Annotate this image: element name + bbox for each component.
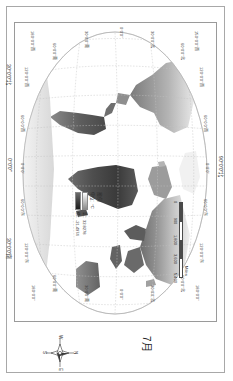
legend-swatch-high-icon (82, 192, 89, 210)
lon-label-top-6: 180°0'0" (195, 285, 200, 301)
scale-bar-ticks: 0 900 1,800 3,600 5,400 (172, 202, 179, 278)
lon-label-top-3: 0°0'0" (205, 163, 210, 174)
lon-label-bottom-0: 180°0'0"西 (30, 31, 36, 51)
legend[interactable]: 图例 单位：°C 高：32.8278 低：-21.4974 (75, 192, 104, 250)
legend-title: 图例 (97, 192, 103, 250)
legend-swatch-low-icon (75, 192, 82, 210)
compass-south-label: S (42, 351, 47, 354)
axis-label-top: 90°0'0"北 (218, 156, 225, 177)
scale-tick-2: 1,800 (174, 235, 179, 245)
legend-row-high: 高：32.8278 (82, 192, 89, 250)
scale-tick-3: 3,600 (174, 254, 179, 264)
lon-label-bottom-3: 0°0'0" (20, 163, 25, 174)
lat-label-left-3: 30°0'0"南 (84, 31, 90, 48)
lon-label-bottom-6: 180°0'0" (31, 285, 36, 301)
lat-label-right-2: 0°0'0" (119, 289, 124, 299)
lon-label-bottom-2: 60°0'0"西 (20, 115, 26, 132)
scale-tick-1: 900 (174, 218, 179, 225)
scale-tick-4: 5,400 (174, 273, 179, 283)
lon-label-top-1: 120°0'0"西 (199, 67, 205, 87)
axis-label-bottom: 0°0'0" (7, 158, 13, 172)
legend-value-low: 低：-21.4974 (75, 212, 81, 236)
map-layout-rotated: 150°0'0"西 120°0'0"西 60°0'0"西 0°0'0" 60°0… (6, 6, 225, 373)
scale-bar-units: Miles (184, 202, 189, 278)
axis-label-left: 30°0'0"北 (6, 64, 13, 85)
compass-rose-icon (43, 336, 77, 370)
lon-label-bottom-4: 60°0'0"东 (20, 199, 26, 216)
lon-label-top-4: 60°0'0"东 (203, 199, 209, 216)
scale-bar-graphic (179, 202, 183, 278)
lon-label-top-5: 120°0'0"东 (199, 243, 205, 263)
lat-label-left-2: 0°0'0" (119, 27, 124, 37)
lat-label-right-3: 30°0'0"南 (84, 285, 90, 302)
compass-west-label: W (58, 335, 63, 339)
scale-seg-2 (180, 222, 182, 241)
lon-label-bottom-5: 120°0'0"东 (24, 243, 30, 263)
legend-unit: 单位：°C (90, 192, 96, 250)
scale-tick-0: 0 (174, 201, 179, 203)
lat-label-left-0: 60°0'0"北 (180, 43, 186, 60)
lon-label-top-2: 60°0'0"西 (203, 115, 209, 132)
page-border: 150°0'0"西 120°0'0"西 60°0'0"西 0°0'0" 60°0… (6, 6, 225, 373)
map-title: 7月 (140, 336, 155, 352)
lat-label-right-4: 60°0'0"南 (52, 275, 58, 292)
axis-label-right: 30°0'0"南 (6, 238, 13, 259)
lat-label-left-4: 60°0'0"南 (52, 43, 58, 60)
legend-row-low: 低：-21.4974 (75, 192, 82, 250)
compass-north-label: N (73, 351, 78, 354)
scale-seg-3 (180, 241, 182, 260)
legend-value-high: 高：32.8278 (82, 212, 88, 234)
lat-label-left-1: 30°0'0"北 (150, 31, 156, 48)
compass-rose: N S E W (43, 336, 77, 370)
lon-label-top-0: 150°0'0"西 (194, 31, 200, 51)
lon-label-bottom-1: 120°0'0"西 (24, 67, 30, 87)
lat-label-right-1: 30°0'0"北 (150, 285, 156, 302)
scale-seg-4 (180, 259, 182, 277)
map-page: 150°0'0"西 120°0'0"西 60°0'0"西 0°0'0" 60°0… (0, 0, 233, 381)
scale-seg-1 (180, 203, 182, 222)
compass-east-label: E (58, 368, 63, 371)
scale-bar: Miles 0 900 1,800 3,600 5,400 (172, 202, 190, 278)
